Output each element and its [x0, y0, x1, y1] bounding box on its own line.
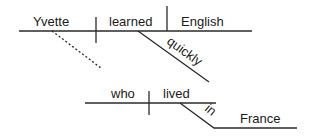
relative-verb-word: lived — [163, 86, 190, 101]
relative-subject-word: who — [110, 86, 135, 101]
sentence-diagram: Yvette learned English quickly who lived… — [0, 0, 309, 139]
modifier-word: quickly — [164, 33, 205, 69]
object-word: English — [181, 14, 224, 29]
prepositional-object-word: France — [240, 111, 280, 126]
subject-word: Yvette — [33, 14, 69, 29]
verb-word: learned — [109, 14, 152, 29]
relative-connector — [52, 31, 101, 68]
